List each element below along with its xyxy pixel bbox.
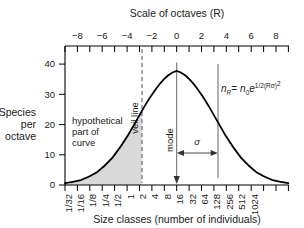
y-axis-tick-labels: 0 10 20 30 40 [44, 58, 55, 190]
bottom-axis-title: Size classes (number of individuals) [93, 213, 261, 225]
svg-text:512: 512 [236, 194, 247, 210]
svg-text:0: 0 [50, 179, 55, 190]
svg-text:1: 1 [125, 194, 136, 199]
svg-text:−8: −8 [72, 30, 83, 41]
top-axis-title: Scale of octaves (R) [130, 7, 225, 19]
chart-svg: Scale of octaves (R) −8 −6 −4 −2 0 2 4 6… [0, 0, 304, 228]
mode-label: mode [164, 128, 175, 152]
svg-text:10: 10 [44, 149, 55, 160]
svg-text:6: 6 [249, 30, 254, 41]
svg-text:1/4: 1/4 [100, 194, 111, 207]
mode-arrowhead-icon [174, 176, 180, 184]
bottom-axis-tick-labels: 1/32 1/16 1/8 1/4 1/2 1 2 4 8 16 32 64 1… [63, 194, 260, 215]
svg-text:0: 0 [174, 30, 179, 41]
svg-text:4: 4 [224, 30, 229, 41]
sigma-label: σ [194, 136, 201, 147]
svg-text:curve: curve [72, 137, 95, 148]
svg-text:32: 32 [187, 194, 198, 205]
svg-text:1/16: 1/16 [75, 194, 86, 213]
svg-text:8: 8 [273, 30, 278, 41]
svg-text:−6: −6 [97, 30, 108, 41]
curve-equation: nR=n0e1/2(Rσ)2 [221, 80, 281, 96]
svg-text:64: 64 [199, 194, 210, 205]
bottom-axis-ticks [65, 185, 288, 191]
svg-text:part of: part of [72, 126, 99, 137]
hypothetical-label: hypothetical part of curve [72, 115, 123, 148]
svg-text:−2: −2 [146, 30, 157, 41]
svg-text:1/8: 1/8 [87, 194, 98, 207]
svg-text:per: per [21, 118, 37, 130]
svg-text:40: 40 [44, 58, 55, 69]
top-axis-ticks [65, 46, 288, 52]
svg-text:20: 20 [44, 119, 55, 130]
svg-text:256: 256 [224, 194, 235, 210]
svg-text:4: 4 [149, 194, 160, 199]
svg-text:hypothetical: hypothetical [72, 115, 123, 126]
sigma-arrowhead-left-icon [177, 150, 184, 156]
svg-text:2: 2 [199, 30, 204, 41]
y-axis-title: Species per octave [0, 106, 36, 142]
svg-text:8: 8 [162, 194, 173, 199]
svg-text:16: 16 [174, 194, 185, 205]
svg-text:Species: Species [0, 106, 36, 118]
y-axis-ticks [59, 64, 65, 185]
svg-text:1024: 1024 [249, 194, 260, 215]
species-abundance-chart: Scale of octaves (R) −8 −6 −4 −2 0 2 4 6… [0, 0, 304, 228]
svg-text:octave: octave [5, 130, 36, 142]
svg-text:30: 30 [44, 89, 55, 100]
sigma-arrowhead-right-icon [211, 150, 218, 156]
top-axis-tick-labels: −8 −6 −4 −2 0 2 4 6 8 [72, 30, 279, 41]
svg-text:1/32: 1/32 [63, 194, 74, 213]
svg-text:1/2: 1/2 [112, 194, 123, 207]
svg-text:−4: −4 [122, 30, 133, 41]
svg-text:2: 2 [137, 194, 148, 199]
svg-text:128: 128 [211, 194, 222, 210]
